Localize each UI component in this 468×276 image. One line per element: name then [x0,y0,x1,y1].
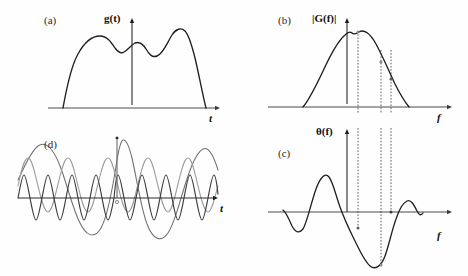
panel-d-origin-dot [115,200,118,203]
panel-d: (d) t [18,137,224,239]
panel-b-magnitude-curve [303,31,409,107]
panel-c-label: (c) [278,147,291,160]
panel-d-x-axis-label: t [220,202,224,214]
sample-dot-b-3 [389,77,392,80]
panel-c-x-axis-label: f [437,229,442,241]
panel-a-origin-dot [131,98,133,100]
panel-d-mid-frequency-sinusoid [18,158,218,212]
panel-a-signal-curve [63,29,206,108]
sample-dot-b-1 [357,31,360,34]
sample-dot-b-2 [379,60,382,63]
sample-dot-c-2 [380,264,383,267]
panel-d-peak-dot [116,137,119,140]
panel-c: (c) θ(f) f [268,125,450,268]
panel-b: (b) |G(f)| f [268,12,450,123]
panel-c-function-label: θ(f) [316,125,333,138]
panel-c-phase-curve [283,175,423,267]
panel-a-label: (a) [44,14,57,27]
panel-a: (a) g(t) t [44,12,218,124]
figure-svg: (a) g(t) t (b) |G(f)| f [0,0,468,276]
panel-d-low-frequency-sinusoid [18,140,218,239]
panel-b-label: (b) [278,14,291,27]
sample-dot-c-1 [357,227,360,230]
panel-b-x-axis-label: f [437,111,442,123]
figure-container: (a) g(t) t (b) |G(f)| f [0,0,468,276]
panel-a-function-label: g(t) [104,12,121,25]
panel-a-x-axis-label: t [209,112,213,124]
panel-b-function-label: |G(f)| [312,12,336,25]
sample-dot-c-3 [390,211,393,214]
panel-d-label: (d) [44,138,57,151]
